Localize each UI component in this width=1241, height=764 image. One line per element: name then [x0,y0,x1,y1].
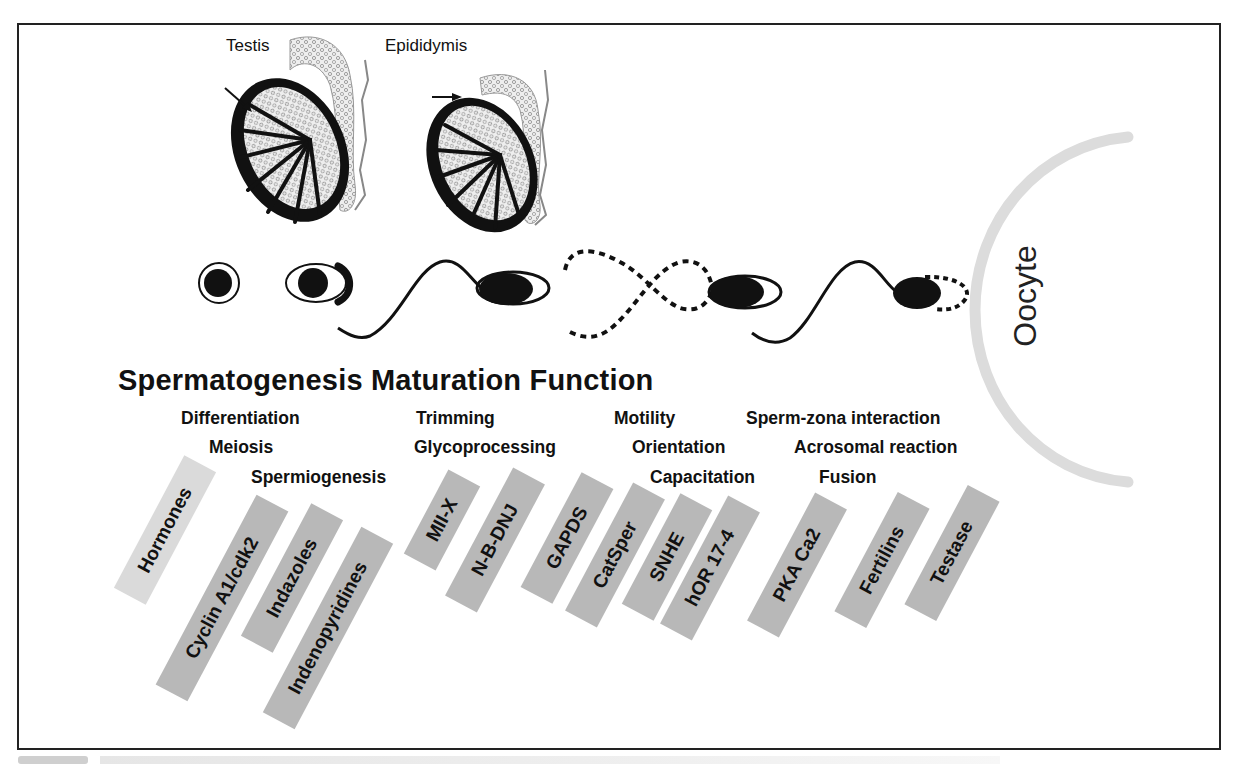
oocyte-label: Oocyte [1007,241,1043,351]
sperm-solid-tail-2 [752,262,967,343]
epididymis-label: Epididymis [385,36,467,56]
epididymis-illustration [405,70,558,250]
elongating-spermatid-icon [286,264,350,302]
process-acrosomal-reaction: Acrosomal reaction [794,437,957,458]
testis-label: Testis [226,36,269,56]
testis-illustration [208,37,371,241]
process-trimming: Trimming [416,408,495,429]
process-differentiation: Differentiation [181,408,300,429]
process-motility: Motility [614,408,675,429]
sperm-solid-tail-1 [338,261,549,338]
process-fusion: Fusion [819,467,876,488]
process-spermiogenesis: Spermiogenesis [251,467,386,488]
stages-title: Spermatogenesis Maturation Function [118,364,654,397]
process-orientation: Orientation [632,437,725,458]
round-spermatid-icon [199,263,239,303]
process-capacitation: Capacitation [650,467,755,488]
process-glycoprocessing: Glycoprocessing [414,437,556,458]
process-meiosis: Meiosis [209,437,273,458]
process-sperm-zona-interaction: Sperm-zona interaction [746,408,940,429]
sperm-dotted-tail [565,251,781,337]
oocyte-arc [975,137,1128,482]
